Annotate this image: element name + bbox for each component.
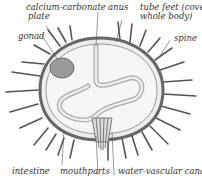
mouthparts-shape xyxy=(92,118,112,150)
gonad-shape xyxy=(50,58,74,78)
label-mouthparts: mouthparts xyxy=(60,167,110,176)
label-calcium-carbonate-plate: calcium-carbonate plate xyxy=(26,3,106,21)
label-gonad: gonad xyxy=(18,32,45,41)
label-tube-feet: tube feet (cover whole body) xyxy=(140,3,202,21)
label-spine: spine xyxy=(174,34,197,43)
label-intestine: intestine xyxy=(12,167,50,176)
label-anus: anus xyxy=(108,3,128,12)
sea-urchin-illustration xyxy=(0,0,202,179)
sea-urchin-diagram: calcium-carbonate plate gonad anus tube … xyxy=(0,0,202,179)
label-water-vascular-canal: water-vascular canal xyxy=(118,167,202,176)
